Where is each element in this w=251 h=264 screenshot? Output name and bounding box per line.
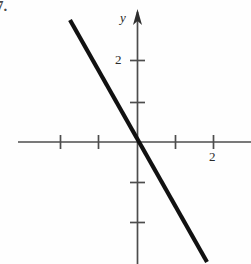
x-tick-label-2: 2 [209,150,216,163]
coordinate-plane [0,0,251,264]
plotted-line [70,20,207,262]
y-axis-label: y [120,11,126,24]
y-tick-label-2: 2 [115,53,122,66]
graph-figure: 7. y 2 2 [0,0,251,264]
